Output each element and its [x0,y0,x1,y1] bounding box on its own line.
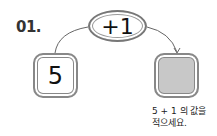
instruction-line-2: 적으세요. [152,117,206,129]
answer-box[interactable] [154,53,199,98]
instruction-line-1: 5 + 1 의 값을 [152,105,206,117]
left-connector-line [55,27,88,53]
operation-label: +1 [101,14,133,39]
input-value: 5 [48,62,63,90]
input-box: 5 [33,53,78,98]
operation-oval: +1 [88,10,147,42]
right-connector-arrow [147,27,177,52]
instruction-text: 5 + 1 의 값을 적으세요. [152,105,206,129]
